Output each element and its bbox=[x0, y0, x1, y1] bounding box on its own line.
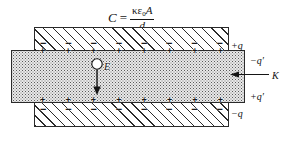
dielectric-slab bbox=[11, 50, 245, 103]
dielectric-leader-arrow-icon bbox=[228, 70, 270, 79]
formula-equals: = bbox=[120, 11, 127, 24]
label-induced-charge-top: −q′ bbox=[250, 56, 264, 66]
electric-field-label: E bbox=[104, 61, 110, 72]
formula-lhs: C bbox=[108, 11, 117, 24]
formula-numerator: κε0A bbox=[130, 5, 154, 20]
top-plate bbox=[34, 27, 229, 51]
bottom-plate bbox=[34, 102, 229, 127]
label-induced-charge-bottom: +q′ bbox=[250, 92, 264, 102]
capacitor-diagram: C = κε0A d − − − − − − − − + + + + + + +… bbox=[0, 0, 286, 142]
area-symbol: A bbox=[146, 4, 153, 16]
label-free-charge-top: +q bbox=[231, 41, 243, 51]
label-free-charge-bottom: −q bbox=[231, 109, 243, 119]
label-dielectric-constant: K bbox=[272, 71, 279, 81]
electric-field-arrow-icon bbox=[84, 57, 118, 97]
